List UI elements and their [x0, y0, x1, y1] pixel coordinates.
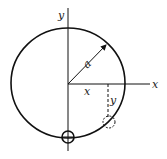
- y-axis-label: y: [57, 9, 65, 22]
- y-coord-label: y: [109, 94, 117, 107]
- x-coord-label: x: [84, 85, 91, 98]
- circle-diagram: y x a x y: [0, 0, 167, 159]
- diagram: y x a x y: [0, 0, 167, 159]
- x-axis-label: x: [152, 78, 159, 91]
